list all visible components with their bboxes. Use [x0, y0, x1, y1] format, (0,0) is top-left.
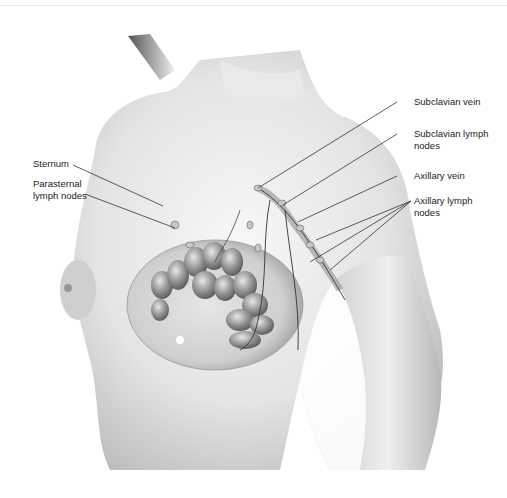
label-axillary-vein: Axillary vein — [414, 170, 465, 182]
hair-shape — [128, 34, 175, 80]
label-sternum: Sternum — [33, 158, 69, 170]
label-axillary-lymph-nodes: Axillary lymph nodes — [414, 195, 473, 219]
label-parasternal-lymph-nodes: Parasternal lymph nodes — [33, 178, 87, 202]
label-subclavian-vein: Subclavian vein — [414, 96, 481, 108]
label-subclavian-lymph-nodes: Subclavian lymph nodes — [414, 128, 488, 152]
right-nipple — [176, 336, 184, 344]
left-nipple — [64, 284, 72, 292]
anatomy-illustration — [0, 0, 507, 498]
